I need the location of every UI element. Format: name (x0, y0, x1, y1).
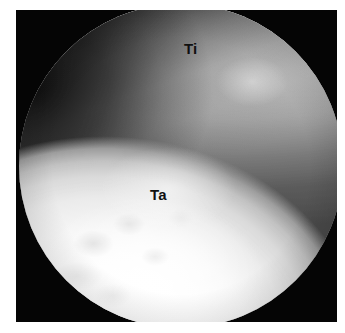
arthroscope-field-of-view (19, 10, 337, 322)
label-tibia: Ti (184, 41, 197, 56)
scope-vignette (19, 10, 337, 322)
label-talus: Ta (150, 187, 167, 202)
photo-frame: Ti Ta (16, 10, 337, 322)
arthroscopy-figure: Ti Ta (0, 0, 345, 333)
